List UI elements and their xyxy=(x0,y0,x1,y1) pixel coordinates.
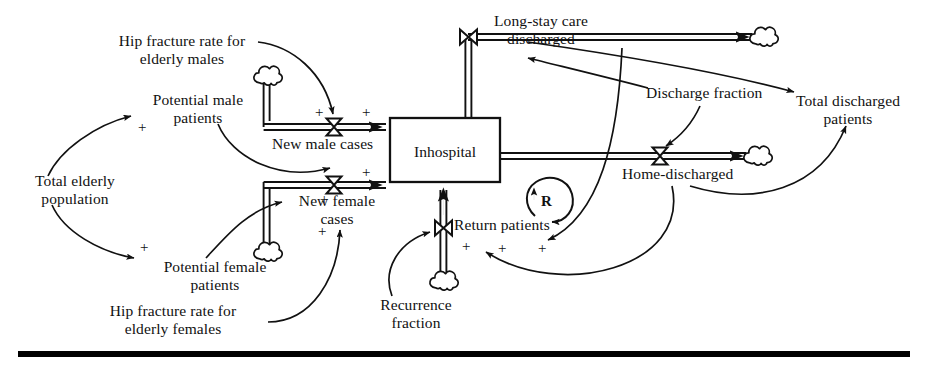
label-discharge-fraction: Discharge fraction xyxy=(646,84,762,102)
polarity-sign-0: + xyxy=(138,120,146,135)
label-hip-fracture-rate-elderly-males: Hip fracture rate forelderly males xyxy=(88,32,276,68)
total-discharged-line1: Total discharged xyxy=(796,92,900,109)
label-return-patients: Return patients xyxy=(454,216,550,234)
potential-male-line2: patients xyxy=(173,109,222,126)
label-total-discharged-patients: Total dischargedpatients xyxy=(778,92,918,128)
link-discharge-fraction-to-long-stay xyxy=(528,58,648,88)
total-elderly-line1: Total elderly xyxy=(35,172,115,189)
bottom-rule xyxy=(18,351,910,357)
link-total-elderly-to-potential-female xyxy=(52,205,134,258)
total-elderly-line2: population xyxy=(41,190,108,207)
cloud-male-source xyxy=(254,66,282,85)
potential-female-line1: Potential female xyxy=(164,258,267,275)
polarity-sign-4: + xyxy=(320,192,328,207)
polarity-sign-6: + xyxy=(318,224,326,239)
label-long-stay-care-discharged: Long-stay caredischarged xyxy=(476,12,606,48)
label-hip-fracture-rate-elderly-females: Hip fracture rate forelderly females xyxy=(78,302,268,338)
long-stay-line1: Long-stay care xyxy=(494,12,588,29)
polarity-sign-9: + xyxy=(538,241,546,256)
long-stay-line2: discharged xyxy=(507,30,575,47)
polarity-sign-8: + xyxy=(498,241,506,256)
label-new-female-cases: New femalecases xyxy=(288,192,386,228)
label-new-male-cases: New male cases xyxy=(272,135,373,153)
hip-fracture-males-line2: elderly males xyxy=(140,50,224,67)
recurrence-line2: fraction xyxy=(392,314,441,331)
valve-return-patients[interactable] xyxy=(435,221,452,236)
link-discharge-fraction-to-home-discharged xyxy=(666,106,700,146)
polarity-sign-3: + xyxy=(140,240,148,255)
valve-long-stay-care-discharged[interactable] xyxy=(460,30,477,45)
label-potential-female-patients: Potential femalepatients xyxy=(140,258,290,294)
link-total-elderly-to-potential-male xyxy=(48,116,131,176)
label-recurrence-fraction: Recurrencefraction xyxy=(368,296,464,332)
polarity-sign-5: + xyxy=(362,165,370,180)
new-female-cases-line1: New female xyxy=(299,192,375,209)
label-total-elderly-population: Total elderlypopulation xyxy=(12,172,138,208)
diagram-canvas: Hip fracture rate forelderly males Poten… xyxy=(0,0,928,374)
total-discharged-line2: patients xyxy=(823,110,872,127)
potential-male-line1: Potential male xyxy=(153,91,244,108)
potential-female-line2: patients xyxy=(190,276,239,293)
hip-fracture-males-line1: Hip fracture rate for xyxy=(119,32,245,49)
hip-fracture-females-line2: elderly females xyxy=(125,320,222,337)
link-long-stay-to-return-patients xyxy=(548,48,622,240)
polarity-sign-2: + xyxy=(362,105,370,120)
flow-pipe-home-discharged xyxy=(500,153,746,159)
polarity-sign-1: + xyxy=(315,105,323,120)
cloud-long-stay-sink xyxy=(750,27,778,46)
label-home-discharged: Home-discharged xyxy=(622,165,733,183)
cloud-home-discharged-sink xyxy=(744,146,772,165)
label-potential-male-patients: Potential malepatients xyxy=(128,91,268,127)
recurrence-line1: Recurrence xyxy=(380,296,452,313)
polarity-sign-7: + xyxy=(462,239,470,254)
hip-fracture-females-line1: Hip fracture rate for xyxy=(110,302,236,319)
stock-label-inhospital: Inhospital xyxy=(390,143,500,161)
link-recurrence-fraction-to-return-patients xyxy=(389,232,430,296)
loop-label-reinforcing: R xyxy=(541,194,552,209)
cloud-recurrence-source xyxy=(430,271,458,290)
